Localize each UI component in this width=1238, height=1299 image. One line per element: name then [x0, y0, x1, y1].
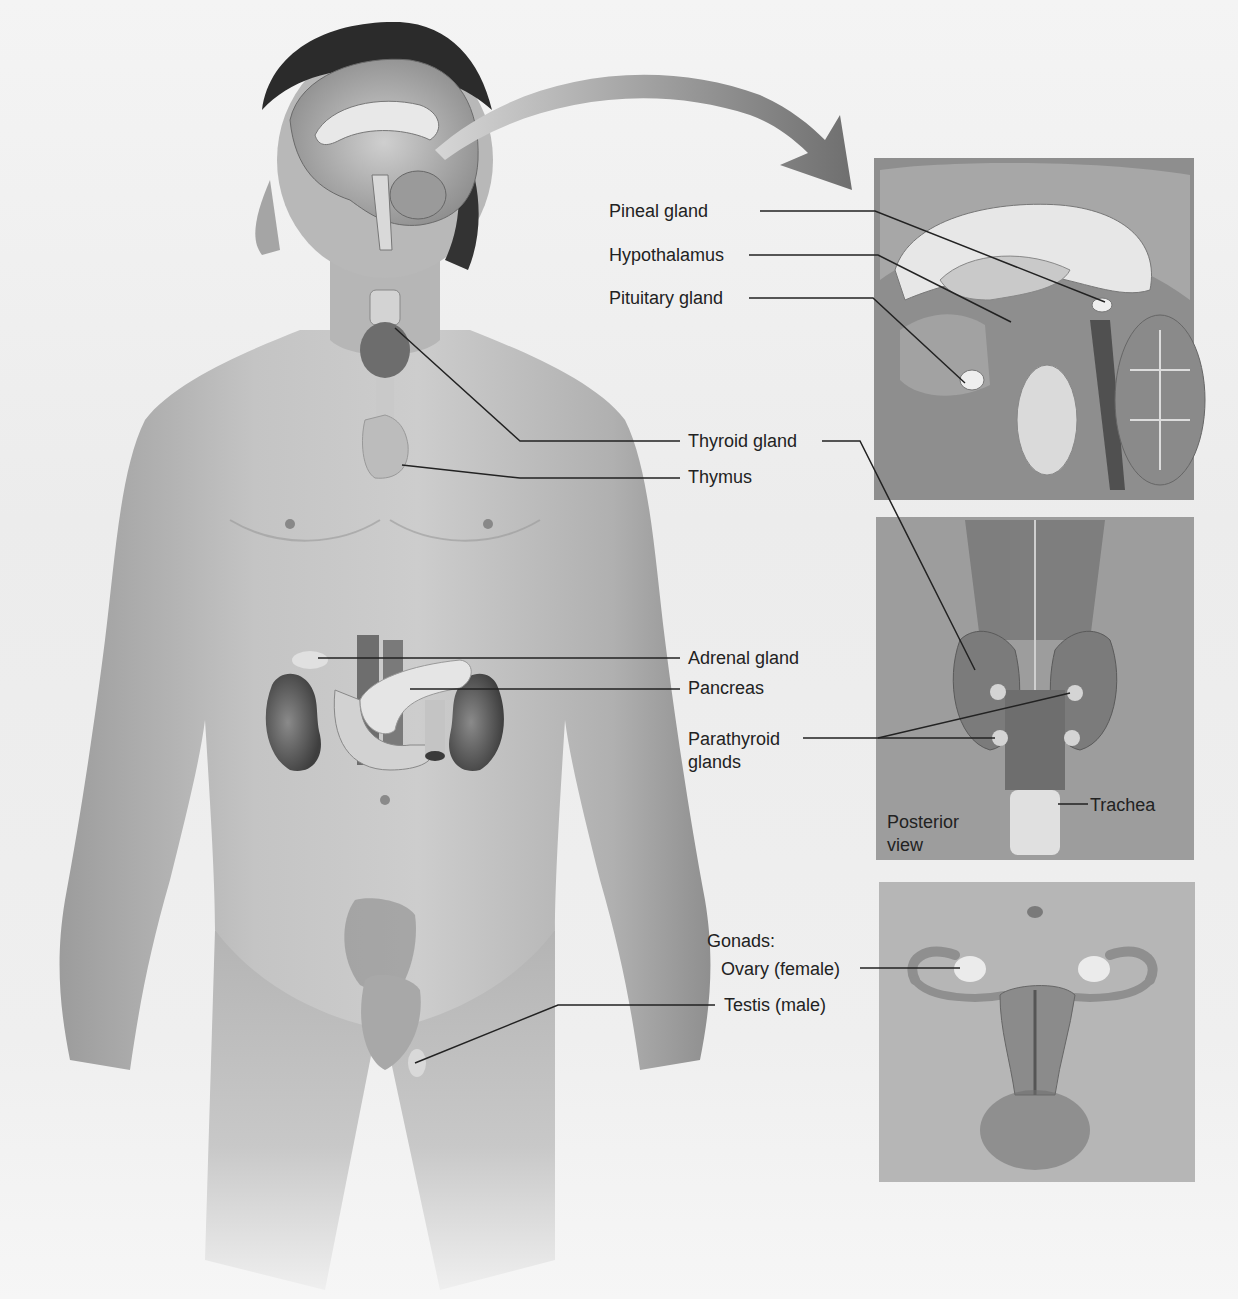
- label-pancreas: Pancreas: [688, 677, 764, 699]
- label-trachea: Trachea: [1090, 794, 1155, 816]
- human-figure-illustration: [0, 0, 1238, 1299]
- panel-pelvis: [879, 882, 1195, 1182]
- label-pineal-gland: Pineal gland: [609, 200, 708, 222]
- label-posterior-line2: view: [887, 834, 923, 856]
- label-hypothalamus: Hypothalamus: [609, 244, 724, 266]
- label-testis: Testis (male): [724, 994, 826, 1016]
- label-thymus: Thymus: [688, 466, 752, 488]
- panel-brain: [874, 158, 1205, 500]
- label-thyroid-gland: Thyroid gland: [688, 430, 797, 452]
- label-gonads: Gonads:: [707, 930, 775, 952]
- label-parathyroid-line1: Parathyroid: [688, 728, 780, 750]
- label-pituitary-gland: Pituitary gland: [609, 287, 723, 309]
- label-adrenal-gland: Adrenal gland: [688, 647, 799, 669]
- label-posterior-line1: Posterior: [887, 811, 959, 833]
- label-parathyroid-line2: glands: [688, 751, 741, 773]
- label-ovary: Ovary (female): [721, 958, 840, 980]
